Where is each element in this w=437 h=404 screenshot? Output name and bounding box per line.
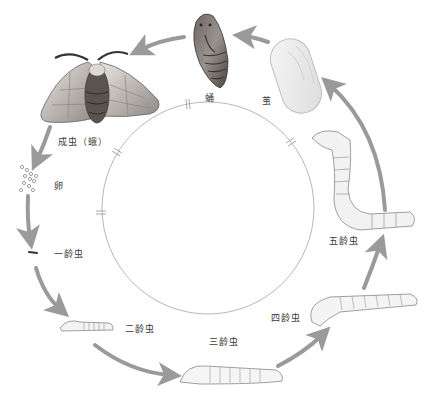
arrow-egg-to-instar1 (28, 196, 30, 238)
life-cycle-diagram: 蛹 茧 成虫（蛾） 卵 一龄虫 二龄虫 三龄虫 四龄虫 五龄虫 (0, 0, 437, 404)
arrow-cocoon-to-pupa (244, 36, 268, 42)
label-cocoon: 茧 (262, 94, 272, 107)
pupa-illustration (194, 14, 228, 88)
instar2-illustration (60, 321, 113, 331)
arrow-adult-to-egg (37, 127, 50, 160)
label-instar-3: 三龄虫 (209, 335, 239, 348)
cocoon-illustration (265, 34, 327, 119)
instar5-illustration (312, 131, 415, 230)
arrow-pupa-to-adult (140, 37, 184, 50)
instar3-illustration (180, 366, 282, 384)
arrow-instar3-to-instar4 (278, 335, 322, 366)
label-adult: 成虫（蛾） (58, 135, 108, 148)
adult-moth-illustration (41, 52, 159, 123)
cycle-circle (96, 99, 314, 314)
instar1-illustration (29, 252, 37, 253)
label-pupa: 蛹 (205, 91, 215, 104)
label-instar-1: 一龄虫 (54, 247, 84, 260)
instar4-illustration (311, 294, 417, 326)
arrow-instar1-to-instar2 (36, 268, 60, 309)
arrow-instar4-to-instar5 (364, 245, 380, 288)
label-instar-2: 二龄虫 (125, 322, 155, 335)
arrow-instar2-to-instar3 (95, 345, 170, 375)
eggs-illustration (19, 165, 37, 191)
label-instar-5: 五龄虫 (329, 234, 359, 247)
label-egg: 卵 (54, 179, 64, 192)
label-instar-4: 四龄虫 (271, 311, 301, 324)
